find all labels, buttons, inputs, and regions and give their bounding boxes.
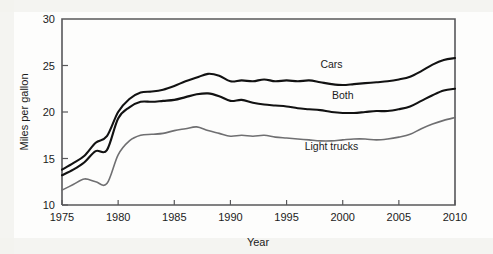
y-axis-title: Miles per gallon (18, 73, 30, 150)
series-line-both (62, 89, 455, 175)
x-tick-label: 1990 (218, 211, 242, 223)
plot-frame (62, 19, 455, 205)
data-series-group (62, 58, 455, 190)
y-tick-label: 15 (43, 153, 55, 165)
x-axis-ticks: 19751980198519901995200020052010 (50, 200, 467, 223)
series-label-cars: Cars (320, 58, 342, 70)
y-tick-label: 10 (43, 199, 55, 211)
x-tick-label: 1980 (106, 211, 130, 223)
x-tick-label: 2000 (330, 211, 354, 223)
line-chart: 19751980198519901995200020052010 1015202… (0, 0, 493, 254)
y-tick-label: 20 (43, 106, 55, 118)
x-tick-label: 1985 (162, 211, 186, 223)
y-axis-ticks: 1015202530 (43, 13, 68, 211)
x-tick-label: 2005 (387, 211, 411, 223)
plot-border (62, 19, 455, 205)
series-line-light-trucks (62, 118, 455, 191)
y-tick-label: 30 (43, 13, 55, 25)
x-tick-label: 1995 (274, 211, 298, 223)
x-tick-label: 2010 (443, 211, 467, 223)
series-labels-group: CarsBothLight trucks (305, 58, 359, 152)
x-axis-title: Year (247, 236, 270, 248)
chart-figure: 19751980198519901995200020052010 1015202… (0, 0, 493, 254)
series-label-both: Both (332, 89, 354, 101)
y-tick-label: 25 (43, 60, 55, 72)
x-tick-label: 1975 (50, 211, 74, 223)
series-label-light-trucks: Light trucks (305, 140, 359, 152)
